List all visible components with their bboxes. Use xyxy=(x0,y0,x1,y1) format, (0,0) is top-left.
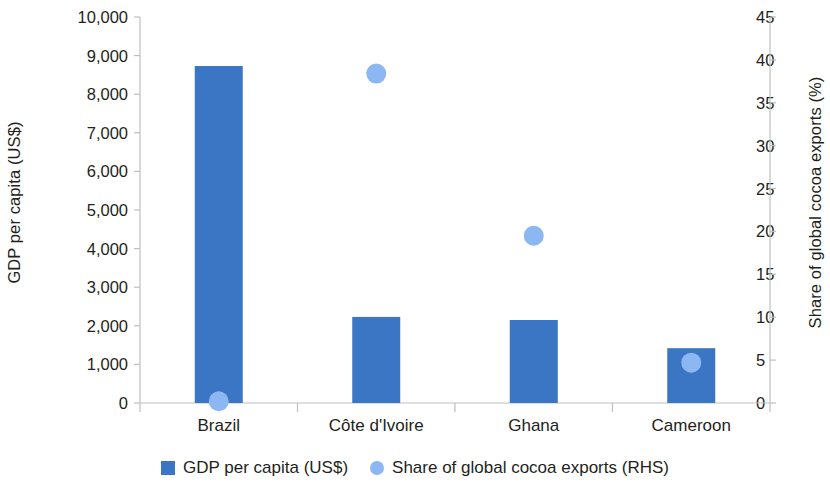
right-axis-title: Share of global cocoa exports (%) xyxy=(802,0,830,405)
left-tick-label: 9,000 xyxy=(87,47,128,64)
left-tick-label: 7,000 xyxy=(87,125,128,142)
left-axis-tick-labels: 01,0002,0003,0004,0005,0006,0007,0008,00… xyxy=(28,0,140,420)
marker-ghana[interactable] xyxy=(524,226,544,246)
chart-container: GDP per capita (US$) Share of global coc… xyxy=(0,0,830,490)
left-tick-label: 0 xyxy=(119,395,128,412)
legend-square-icon xyxy=(161,461,175,475)
marker-c-te-d-ivoire[interactable] xyxy=(366,64,386,84)
legend-item-label: Share of global cocoa exports (RHS) xyxy=(392,458,669,478)
left-tick-label: 5,000 xyxy=(87,202,128,219)
x-axis-category-labels: BrazilCôte d'IvoireGhanaCameroon xyxy=(140,416,770,446)
left-axis-title-text: GDP per capita (US$) xyxy=(5,121,24,283)
marker-brazil[interactable] xyxy=(209,391,229,411)
x-axis-category-label: Brazil xyxy=(140,416,298,446)
bar-ghana[interactable] xyxy=(510,320,558,403)
bar-c-te-d-ivoire[interactable] xyxy=(352,317,400,403)
bar-brazil[interactable] xyxy=(195,66,243,403)
left-tick-label: 4,000 xyxy=(87,240,128,257)
legend-item[interactable]: GDP per capita (US$) xyxy=(161,458,348,478)
plot-svg xyxy=(140,17,770,403)
right-axis-title-text: Share of global cocoa exports (%) xyxy=(807,77,826,329)
marker-cameroon[interactable] xyxy=(681,353,701,373)
x-axis-category-label: Côte d'Ivoire xyxy=(298,416,456,446)
x-axis-category-label: Ghana xyxy=(455,416,613,446)
legend-item[interactable]: Share of global cocoa exports (RHS) xyxy=(370,458,669,478)
x-axis-category-label: Cameroon xyxy=(613,416,771,446)
left-tick-label: 3,000 xyxy=(87,279,128,296)
plot-area xyxy=(140,17,770,403)
left-axis-title: GDP per capita (US$) xyxy=(0,0,28,405)
left-tick-label: 1,000 xyxy=(87,356,128,373)
left-tick-label: 8,000 xyxy=(87,86,128,103)
left-tick-label: 6,000 xyxy=(87,163,128,180)
legend-item-label: GDP per capita (US$) xyxy=(183,458,348,478)
chart-legend: GDP per capita (US$)Share of global coco… xyxy=(0,458,830,478)
legend-circle-icon xyxy=(370,461,384,475)
left-tick-label: 2,000 xyxy=(87,318,128,335)
left-tick-label: 10,000 xyxy=(78,9,128,26)
